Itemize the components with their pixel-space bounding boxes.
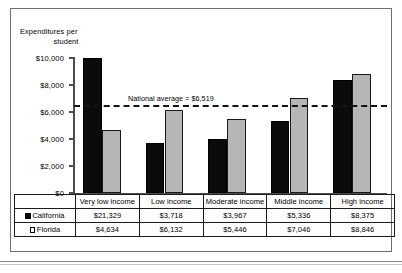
bar-california-low-income <box>146 143 165 193</box>
bar-florida-very-low-income <box>102 130 121 193</box>
table-category-header: Moderate income <box>203 195 267 209</box>
table-cell: $8,375 <box>331 209 395 223</box>
y-axis-tick-label: $10,000 <box>8 54 64 63</box>
table-cell: $21,329 <box>76 209 140 223</box>
y-axis-title: Expenditures per student <box>20 27 112 46</box>
table-cell: $8,846 <box>331 223 395 237</box>
data-table: Very low incomeLow incomeModerate income… <box>14 194 395 237</box>
bar-california-very-low-income <box>83 58 102 193</box>
legend-label: Florida <box>37 225 60 234</box>
y-axis-title-line1: Expenditures per <box>20 27 112 37</box>
plot-area <box>74 58 387 193</box>
data-table-wrap: Very low incomeLow incomeModerate income… <box>14 194 388 248</box>
y-axis-tick-label: $2,000 <box>8 162 64 171</box>
y-axis-tick-label: $6,000 <box>8 108 64 117</box>
table-cell: $3,967 <box>203 209 267 223</box>
bar-florida-low-income <box>165 110 184 193</box>
table-corner-cell <box>15 195 76 209</box>
table-category-header: Low income <box>139 195 203 209</box>
bar-florida-middle-income <box>290 98 309 193</box>
table-cell: $4,634 <box>76 223 140 237</box>
table-category-header: Very low income <box>76 195 140 209</box>
table-category-header: High income <box>331 195 395 209</box>
table-header-row: Very low incomeLow incomeModerate income… <box>15 195 395 209</box>
bar-california-moderate-income <box>208 139 227 193</box>
table-cell: $3,718 <box>139 209 203 223</box>
table-cell: $6,132 <box>139 223 203 237</box>
national-average-label: National average = $6,519 <box>128 94 214 103</box>
y-axis-tick-label: $4,000 <box>8 135 64 144</box>
national-average-line <box>74 105 387 107</box>
y-axis-title-line2: student <box>20 37 112 47</box>
table-row: Florida$4,634$6,132$5,446$7,046$8,846 <box>15 223 395 237</box>
y-axis-tick-label: $8,000 <box>8 81 64 90</box>
bottom-rule <box>0 261 402 262</box>
legend-item-california[interactable]: California <box>15 209 76 223</box>
legend-swatch-florida-icon <box>30 227 36 233</box>
bar-florida-moderate-income <box>227 119 246 193</box>
table-cell: $5,336 <box>267 209 331 223</box>
legend-item-florida[interactable]: Florida <box>15 223 76 237</box>
table-cell: $5,446 <box>203 223 267 237</box>
chart-figure: Expenditures per student $0$2,000$4,000$… <box>0 0 402 273</box>
table-cell: $7,046 <box>267 223 331 237</box>
legend-label: California <box>32 211 64 220</box>
bar-california-high-income <box>333 80 352 193</box>
table-category-header: Middle income <box>267 195 331 209</box>
table-row: California$21,329$3,718$3,967$5,336$8,37… <box>15 209 395 223</box>
bar-florida-high-income <box>352 74 371 193</box>
bottom-rule-secondary <box>0 264 402 265</box>
legend-swatch-california-icon <box>25 213 31 219</box>
bar-california-middle-income <box>271 121 290 193</box>
